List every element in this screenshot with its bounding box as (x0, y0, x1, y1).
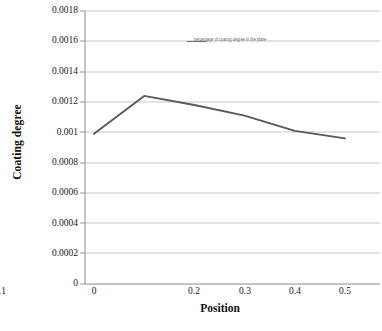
x-tick-label: 0.3 (225, 286, 265, 296)
x-tick-label: 0 (74, 286, 114, 296)
x-tick-label: 0.4 (275, 286, 315, 296)
y-axis-ticks (80, 11, 85, 284)
x-tick-label: 0.1 (0, 286, 20, 296)
plot-area (0, 0, 382, 331)
x-tick-label: 0.2 (174, 286, 214, 296)
x-axis-title: Position (94, 302, 346, 314)
legend-label: percentage of coating degree in the plan… (194, 38, 267, 43)
x-tick-label: 0.5 (325, 286, 365, 296)
chart-figure: Coating degree 0.0018 0.0016 0.0014 0.00… (0, 0, 382, 331)
y-gridlines (85, 11, 380, 253)
